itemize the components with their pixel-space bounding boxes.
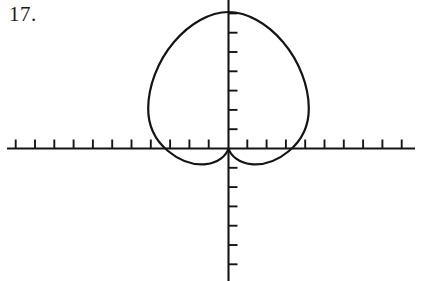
graph-canvas	[0, 0, 421, 281]
y-axis-ticks	[229, 13, 238, 264]
x-axis-group	[7, 140, 415, 149]
figure-container: 17.	[0, 0, 421, 281]
x-axis-ticks	[16, 140, 402, 149]
y-axis-group	[229, 0, 238, 281]
